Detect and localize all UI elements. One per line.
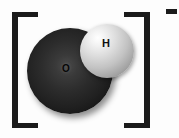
atom-label-hydrogen: H — [99, 38, 113, 49]
atom-label-oxygen: O — [59, 64, 73, 74]
atom-sphere-hydrogen — [80, 24, 134, 78]
hydroxide-ion-figure: − O H — [0, 0, 179, 138]
molecule-model: O H — [0, 0, 179, 138]
